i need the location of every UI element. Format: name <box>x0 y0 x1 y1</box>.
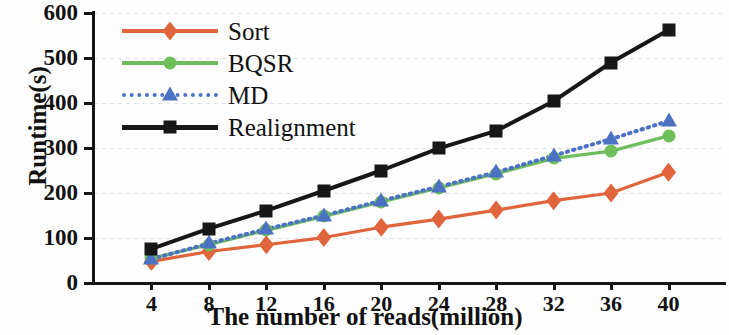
data-point-realignment <box>432 142 445 155</box>
data-point-realignment <box>605 56 618 69</box>
data-point-md <box>603 131 619 145</box>
legend-label: Realignment <box>218 115 356 140</box>
legend-swatch-sort <box>122 20 218 42</box>
legend-label: MD <box>218 83 268 108</box>
data-point-realignment <box>490 124 503 137</box>
legend-marker-diamond-icon <box>163 22 178 41</box>
x-tick-label: 32 <box>534 293 574 315</box>
legend-swatch-bqsr <box>122 52 218 74</box>
data-point-md <box>373 192 389 206</box>
legend-label: BQSR <box>218 51 293 76</box>
data-point-realignment <box>662 24 675 37</box>
data-point-md <box>201 235 217 249</box>
data-point-md <box>258 221 274 235</box>
data-point-realignment <box>202 222 215 235</box>
x-tick-label: 4 <box>131 293 171 315</box>
chart-figure: Runtime(s) The number of reads(million) … <box>0 0 729 335</box>
legend-swatch-md <box>122 84 218 106</box>
x-tick-label: 28 <box>476 293 516 315</box>
legend-marker-triangle-icon <box>162 87 178 101</box>
data-point-realignment <box>317 184 330 197</box>
data-point-bqsr <box>662 129 675 142</box>
y-tick-label: 0 <box>20 271 78 294</box>
legend-item-realignment[interactable]: Realignment <box>122 112 372 142</box>
legend-swatch-realignment <box>122 116 218 138</box>
legend-item-sort[interactable]: Sort <box>122 16 372 46</box>
legend-marker-square-icon <box>164 121 177 134</box>
legend-item-md[interactable]: MD <box>122 80 372 110</box>
y-tick-label: 600 <box>20 1 78 24</box>
x-tick-label: 16 <box>304 293 344 315</box>
data-point-realignment <box>145 242 158 255</box>
x-tick-label: 20 <box>361 293 401 315</box>
data-point-md <box>546 147 562 161</box>
series-line-sort <box>151 172 668 261</box>
y-tick-label: 500 <box>20 46 78 69</box>
chart-legend: SortBQSRMDRealignment <box>122 16 372 144</box>
data-point-realignment <box>547 95 560 108</box>
data-point-md <box>316 207 332 221</box>
y-tick-label: 400 <box>20 91 78 114</box>
y-tick-label: 200 <box>20 181 78 204</box>
data-point-bqsr <box>605 145 618 158</box>
x-tick-label: 24 <box>419 293 459 315</box>
data-point-md <box>431 178 447 192</box>
legend-label: Sort <box>218 19 270 44</box>
x-tick-label: 8 <box>189 293 229 315</box>
y-tick-label: 300 <box>20 136 78 159</box>
data-point-realignment <box>375 164 388 177</box>
data-point-md <box>488 164 504 178</box>
legend-item-bqsr[interactable]: BQSR <box>122 48 372 78</box>
y-tick-label: 100 <box>20 226 78 249</box>
data-point-realignment <box>260 204 273 217</box>
legend-marker-circle-icon <box>164 57 177 70</box>
x-tick-label: 40 <box>649 293 689 315</box>
x-tick-label: 12 <box>246 293 286 315</box>
x-tick-label: 36 <box>591 293 631 315</box>
data-point-md <box>661 113 677 127</box>
